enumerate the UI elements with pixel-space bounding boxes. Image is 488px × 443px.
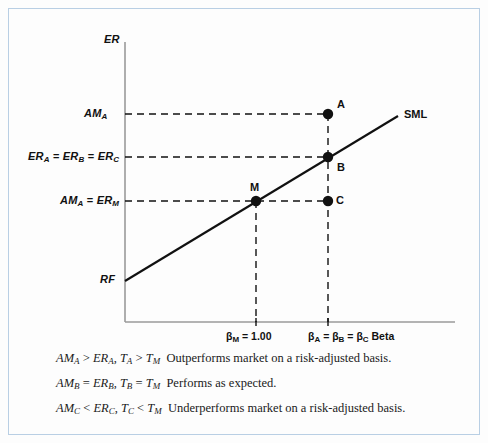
x-tick-label-m: βM = 1.00: [226, 331, 272, 344]
cap-a-rhs1: ER: [93, 351, 108, 365]
point-label-c: C: [336, 195, 344, 206]
cap-b-op2: =: [135, 376, 142, 390]
equals-4: =: [323, 330, 329, 342]
cap-b-comma: ,: [114, 376, 117, 390]
er-m-sub: M: [112, 199, 119, 208]
equals-5: =: [347, 330, 353, 342]
cap-a-op1: >: [83, 351, 90, 365]
y-value-er-equal: ERA = ERB = ERC: [28, 151, 119, 164]
cap-b-lhs1: AM: [56, 376, 74, 390]
y-value-am-a: AMA: [84, 108, 108, 121]
equals-1: =: [53, 150, 60, 162]
cap-b-op1: =: [83, 376, 90, 390]
beta-m-value: = 1.00: [242, 330, 272, 342]
caption-line-c: AMC < ERC, TC < TM Underperforms market …: [56, 402, 405, 416]
am-a2-sub: A: [78, 199, 84, 208]
cap-c-lhs2-sub: C: [128, 406, 134, 416]
beta-b-sub: B: [339, 335, 345, 344]
point-b: [323, 152, 333, 162]
beta-c-sub: C: [363, 335, 369, 344]
x-axis-label: Beta: [372, 330, 395, 342]
point-m: [251, 196, 261, 206]
sml-figure: ER RF SML AMA ERA = ERB = ERC AMA = ERM …: [0, 0, 488, 443]
caption-line-a: AMA > ERA, TA > TM Outperforms market on…: [56, 352, 391, 366]
beta-m-sub: M: [232, 335, 239, 344]
cap-b-text: Performs as expected.: [166, 376, 276, 390]
y-value-am-a-base: AM: [84, 107, 102, 119]
point-label-m: M: [250, 182, 259, 193]
cap-c-rhs2-sub: M: [154, 406, 162, 416]
cap-a-op2: >: [135, 351, 142, 365]
cap-c-lhs1: AM: [56, 401, 74, 415]
cap-c-lhs2: T: [121, 401, 128, 415]
cap-a-rhs2: T: [146, 351, 153, 365]
er-a-sub: A: [44, 155, 50, 164]
x-tick-label-abc: βA = βB = βC Beta: [308, 331, 394, 344]
cap-a-lhs1: AM: [56, 351, 74, 365]
cap-a-rhs2-sub: M: [153, 356, 161, 366]
er-b-base: ER: [63, 150, 79, 162]
cap-b-lhs2: T: [120, 376, 127, 390]
sml-line: [125, 116, 398, 281]
cap-b-rhs2-sub: M: [153, 381, 161, 391]
sml-label: SML: [404, 109, 427, 120]
point-label-b: B: [337, 162, 345, 173]
point-c: [323, 196, 333, 206]
cap-c-text: Underperforms market on a risk-adjusted …: [168, 401, 405, 415]
er-c-sub: C: [113, 155, 119, 164]
er-c-base: ER: [98, 150, 114, 162]
cap-a-text: Outperforms market on a risk-adjusted ba…: [166, 351, 391, 365]
am-a2-base: AM: [60, 194, 78, 206]
cap-c-rhs1: ER: [93, 401, 108, 415]
y-value-am-a-sub: A: [102, 112, 108, 121]
cap-b-rhs2: T: [146, 376, 153, 390]
beta-a-sub: A: [314, 335, 320, 344]
cap-a-lhs2: T: [120, 351, 127, 365]
er-a-base: ER: [28, 150, 44, 162]
y-value-am-er-m: AMA = ERM: [60, 195, 119, 208]
cap-a-lhs1-sub: A: [74, 356, 80, 366]
cap-b-lhs1-sub: B: [74, 381, 80, 391]
cap-b-rhs1: ER: [93, 376, 108, 390]
er-m-base: ER: [97, 194, 113, 206]
caption-line-b: AMB = ERB, TB = TM Performs as expected.: [56, 377, 276, 391]
y-axis-label: ER: [104, 34, 120, 45]
point-a: [323, 109, 333, 119]
cap-c-comma: ,: [115, 401, 118, 415]
cap-a-comma: ,: [114, 351, 117, 365]
er-b-sub: B: [79, 155, 85, 164]
point-label-a: A: [337, 99, 345, 110]
rf-label: RF: [100, 274, 115, 285]
